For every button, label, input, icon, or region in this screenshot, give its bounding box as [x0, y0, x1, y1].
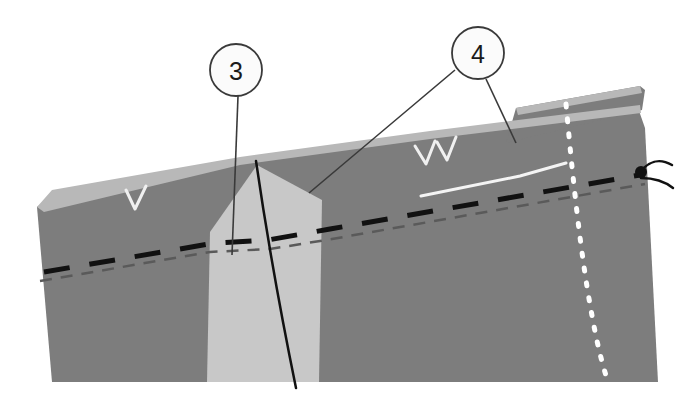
callout-3[interactable]: 3: [210, 44, 262, 96]
geologic-cross-section-figure: 3 4: [0, 0, 693, 403]
callout-4-label: 4: [471, 40, 485, 68]
figure-canvas: 3 4: [0, 0, 693, 403]
callout-3-label: 3: [229, 57, 243, 85]
callout-4[interactable]: 4: [452, 27, 504, 79]
fault-hinge-dot: [635, 166, 647, 178]
